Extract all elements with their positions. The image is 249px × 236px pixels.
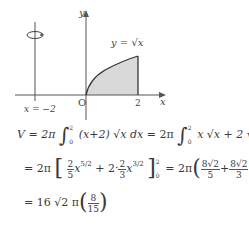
equation-line-1: V = 2π ∫20 (x+2) √x dx = 2π ∫20 x √x + 2… [17,121,249,149]
shaded-region [86,56,138,95]
integral-sign-2: ∫ [177,123,187,147]
left-bracket: [ [54,155,63,180]
line3-prefix: = 16 √2 π [24,196,79,209]
evaluation-limits: 20 [156,155,162,183]
right-paren-3: ) [99,189,108,214]
left-paren: ( [192,155,201,180]
left-paren-3: ( [79,189,88,214]
right-paren: ) [248,155,249,180]
volume-lhs: V = 2π [17,128,55,141]
solid-of-revolution-figure: y x O 2 y = √x x = −2 [0,0,249,120]
equation-line-2: = 2π [ 25x5/2 + 2·23x3/2 ]20 = 2π(8√25+8… [24,155,249,183]
x-axis-label: x [160,96,166,107]
right-bracket: ] [147,155,156,180]
integral-limits-1: 20 [69,121,75,149]
line2-prefix: = 2π [24,162,51,175]
integral-limits-2: 20 [188,121,194,149]
exponent-3-2: 3/2 [132,160,143,168]
equals-1: = 2π [147,128,174,141]
fraction-8r2-5: 8√25 [201,159,220,180]
plus-two: + 2· [95,162,118,175]
integrand-1: (x+2) √x dx [79,128,143,141]
integrand-2: x √x + 2 √x dx [197,128,249,141]
curve-label: y = √x [110,37,144,48]
integral-sign-1: ∫ [59,123,69,147]
equation-line-3: = 16 √2 π(815) [24,189,108,214]
equals-2: = 2π [165,162,192,175]
tick-label-2: 2 [135,98,141,108]
y-axis-label: y [78,7,85,18]
fraction-8r2-3: 8√23 [229,159,248,180]
rotation-axis-label: x = −2 [24,104,56,114]
origin-label: O [78,97,86,108]
fraction-8-15: 815 [88,193,99,214]
exponent-5-2: 5/2 [81,160,92,168]
plus: + [220,162,229,175]
